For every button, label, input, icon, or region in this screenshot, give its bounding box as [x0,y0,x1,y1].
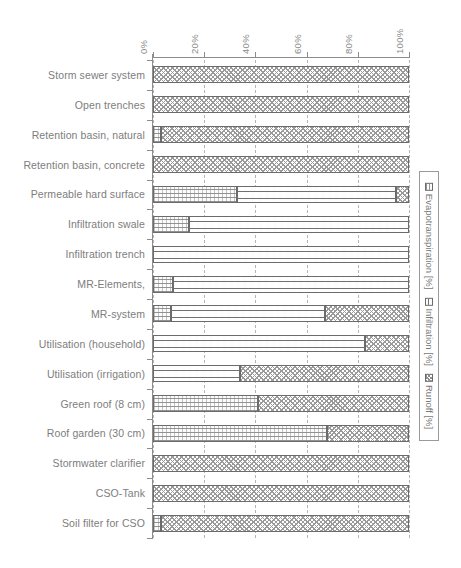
bar-segment-runoff[interactable] [365,335,409,352]
y-axis-tick [147,508,153,509]
y-axis-tick [147,90,153,91]
category-label: Roof garden (30 cm) [47,426,145,440]
y-axis-tick [147,180,153,181]
y-axis-tick [147,150,153,151]
chart-legend: Evapotranspiration [%]Infiltration [%]Ru… [419,171,439,441]
x-axis-tick [307,52,308,58]
y-axis-tick [147,60,153,61]
y-axis-tick [147,389,153,390]
bar-segment-runoff[interactable] [240,365,409,382]
category-label: Green roof (8 cm) [60,397,145,411]
bar-segment-infil[interactable] [189,216,409,233]
x-axis-tick-label: 20% [189,34,200,54]
y-axis-tick [147,120,153,121]
x-axis-tick-label: 0% [138,40,149,54]
y-axis-tick [147,239,153,240]
bar-segment-runoff[interactable] [258,395,409,412]
legend-swatch-runoff-icon [425,374,433,382]
y-axis-tick [147,448,153,449]
bar-segment-runoff[interactable] [153,96,409,113]
bar-row[interactable] [153,395,409,412]
bar-segment-infil[interactable] [173,276,409,293]
y-axis-tick [147,359,153,360]
y-axis-tick [147,419,153,420]
bar-segment-evap[interactable] [153,216,189,233]
plot-area [153,60,409,538]
x-axis-tick-label: 40% [240,34,251,54]
bar-row[interactable] [153,216,409,233]
category-label: Infiltration trench [65,247,145,261]
category-label: Utilisation (household) [39,337,145,351]
bar-row[interactable] [153,305,409,322]
bar-row[interactable] [153,485,409,502]
x-axis-tick [255,52,256,58]
y-axis-tick [147,269,153,270]
bar-segment-evap[interactable] [153,395,258,412]
bar-segment-evap[interactable] [153,305,171,322]
legend-label: Evapotranspiration [%] [424,194,434,290]
legend-label: Infiltration [%] [424,308,434,366]
bar-row[interactable] [153,335,409,352]
bar-segment-evap[interactable] [153,186,237,203]
y-axis-tick [147,538,153,539]
category-label: Retention basin, natural [32,128,145,142]
x-axis-tick-labels: 0%20%40%60%80%100% [0,0,461,60]
category-label: CSO-Tank [96,486,145,500]
bar-segment-runoff[interactable] [161,515,409,532]
category-label: Stormwater clarifier [53,456,145,470]
bar-row[interactable] [153,96,409,113]
bar-segment-runoff[interactable] [396,186,409,203]
bar-row[interactable] [153,455,409,472]
bar-row[interactable] [153,156,409,173]
x-axis-tick-label: 60% [292,34,303,54]
bar-row[interactable] [153,276,409,293]
bar-row[interactable] [153,246,409,263]
x-axis-tick [358,52,359,58]
x-axis-line [152,57,410,58]
bar-segment-infil[interactable] [153,246,409,263]
bar-segment-evap[interactable] [153,276,173,293]
bar-segment-evap[interactable] [153,515,161,532]
x-axis-tick [153,52,154,58]
x-axis-tick-label: 80% [343,34,354,54]
bar-segment-runoff[interactable] [153,485,409,502]
category-label: Permeable hard surface [31,187,145,201]
bar-segment-evap[interactable] [153,425,327,442]
x-axis-tick [204,52,205,58]
category-label: Open trenches [75,98,145,112]
bar-segment-infil[interactable] [171,305,325,322]
bar-segment-runoff[interactable] [325,305,409,322]
bar-segment-infil[interactable] [153,335,365,352]
category-label: Retention basin, concrete [23,158,145,172]
bar-segment-runoff[interactable] [153,156,409,173]
y-axis-tick [147,478,153,479]
bar-row[interactable] [153,425,409,442]
legend-entry[interactable]: Runoff [%] [424,374,434,429]
x-axis-tick [409,52,410,58]
bar-segment-runoff[interactable] [153,455,409,472]
gridline [409,60,410,538]
y-axis-tick [147,299,153,300]
bar-row[interactable] [153,186,409,203]
bar-row[interactable] [153,515,409,532]
legend-entry[interactable]: Infiltration [%] [424,297,434,366]
legend-entry[interactable]: Evapotranspiration [%] [424,183,434,290]
category-label: Utilisation (irrigation) [47,367,145,381]
legend-swatch-infil-icon [425,297,433,305]
y-axis-tick [147,209,153,210]
bar-segment-runoff[interactable] [161,126,409,143]
x-axis-tick-label: 100% [394,29,405,55]
category-label: Storm sewer system [48,68,145,82]
bar-segment-infil[interactable] [153,365,240,382]
bar-row[interactable] [153,126,409,143]
bar-row[interactable] [153,365,409,382]
legend-label: Runoff [%] [424,385,434,429]
bar-segment-infil[interactable] [237,186,396,203]
stacked-bar-chart: 0%20%40%60%80%100% Storm sewer systemOpe… [0,0,461,568]
category-label: MR-system [91,307,145,321]
bar-segment-runoff[interactable] [153,66,409,83]
category-label: Infiltration swale [68,217,145,231]
bar-segment-runoff[interactable] [327,425,409,442]
bar-row[interactable] [153,66,409,83]
bar-segment-evap[interactable] [153,126,161,143]
